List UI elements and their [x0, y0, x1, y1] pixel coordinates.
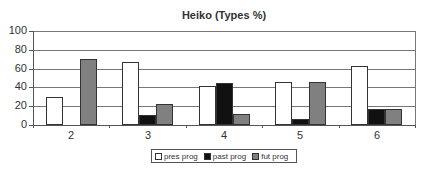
x-tick-label: 3 — [138, 129, 158, 141]
x-tick-label: 4 — [214, 129, 234, 141]
legend-swatch-past-prog — [204, 153, 211, 160]
bar-fut-prog-5 — [309, 82, 326, 125]
bar-pres-prog-2 — [46, 97, 63, 125]
y-tick-label: 60 — [0, 62, 27, 74]
x-tick — [33, 125, 34, 128]
y-tick-label: 100 — [0, 24, 27, 36]
legend-swatch-pres-prog — [155, 153, 162, 160]
bar-fut-prog-3 — [156, 104, 173, 125]
x-tick — [415, 125, 416, 128]
legend-item-pres-prog: pres prog — [155, 152, 198, 161]
bar-fut-prog-2 — [80, 59, 97, 125]
y-tick-label: 0 — [0, 118, 27, 130]
y-axis — [33, 31, 34, 126]
legend-item-fut-prog: fut prog — [252, 152, 288, 161]
y-tick-label: 80 — [0, 43, 27, 55]
bar-fut-prog-6 — [385, 109, 402, 125]
chart-title: Heiko (Types %) — [0, 9, 430, 21]
x-tick-label: 2 — [61, 129, 81, 141]
x-tick — [339, 125, 340, 128]
gridline — [33, 50, 415, 51]
y-tick-label: 20 — [0, 99, 27, 111]
bar-past-prog-6 — [368, 109, 385, 125]
bar-pres-prog-6 — [351, 66, 368, 125]
x-tick-label: 6 — [367, 129, 387, 141]
legend-item-past-prog: past prog — [204, 152, 246, 161]
bar-pres-prog-5 — [275, 82, 292, 125]
x-tick — [262, 125, 263, 128]
x-tick-label: 5 — [290, 129, 310, 141]
bar-pres-prog-4 — [199, 86, 216, 125]
legend-label: past prog — [213, 152, 246, 161]
bar-fut-prog-4 — [233, 114, 250, 125]
bar-past-prog-5 — [292, 119, 309, 125]
bar-past-prog-3 — [139, 115, 156, 125]
x-axis — [33, 125, 416, 126]
bar-pres-prog-3 — [122, 62, 139, 125]
legend: pres prog past prog fut prog — [151, 149, 297, 163]
bar-past-prog-4 — [216, 83, 233, 125]
gridline — [33, 31, 415, 32]
x-tick — [186, 125, 187, 128]
x-tick — [109, 125, 110, 128]
legend-label: fut prog — [261, 152, 288, 161]
legend-label: pres prog — [164, 152, 198, 161]
legend-swatch-fut-prog — [252, 153, 259, 160]
y-tick-label: 40 — [0, 80, 27, 92]
